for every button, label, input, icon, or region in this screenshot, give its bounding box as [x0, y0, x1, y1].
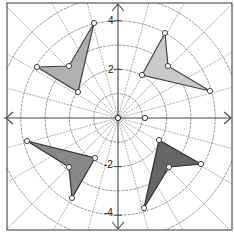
- vertex-point: [141, 205, 146, 210]
- coordinate-axes: [4, 4, 231, 229]
- polar-grid-canvas: 42-2-4: [0, 0, 234, 232]
- origin-point: [115, 115, 120, 120]
- vertex-point: [156, 137, 161, 142]
- vertex-point: [66, 63, 71, 68]
- vertex-point: [69, 195, 74, 200]
- tick-label: 4: [108, 15, 114, 26]
- vertex-point: [165, 63, 170, 68]
- vertex-point: [92, 155, 97, 160]
- vertex-point: [24, 138, 29, 143]
- vertex-point: [207, 88, 212, 93]
- vertex-point: [66, 164, 71, 169]
- vertex-point: [162, 30, 167, 35]
- polygon-shape: [27, 141, 95, 198]
- vertex-point: [198, 161, 203, 166]
- vertex-point: [139, 72, 144, 77]
- vertex-point: [34, 64, 39, 69]
- axis-point: [142, 115, 147, 120]
- tick-label: -4: [104, 207, 113, 218]
- vertex-point: [91, 20, 96, 25]
- tick-label: -2: [104, 159, 113, 170]
- top-left-kite: [34, 20, 96, 94]
- polygon-shape: [142, 33, 210, 91]
- tick-label: 2: [108, 64, 114, 75]
- vertex-point: [75, 89, 80, 94]
- polar-diagram: 42-2-4: [0, 0, 234, 232]
- vertex-point: [166, 164, 171, 169]
- polygon-shape: [144, 140, 201, 208]
